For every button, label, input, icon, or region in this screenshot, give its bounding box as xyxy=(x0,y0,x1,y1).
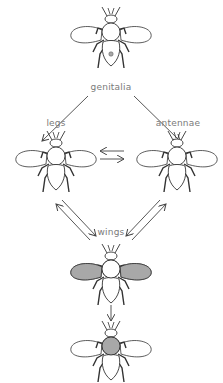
arrow-antennae-to-wings xyxy=(126,200,160,236)
label-antennae: antennae xyxy=(156,118,200,128)
label-legs: legs xyxy=(46,118,65,128)
fly-thorax xyxy=(71,321,151,382)
arrow-wings-to-antennae xyxy=(132,204,166,240)
arrow-wings-to-legs xyxy=(56,204,90,240)
wing-right-highlight xyxy=(120,264,151,280)
fly-development-diagram xyxy=(0,0,223,383)
arrow-legs-to-wings xyxy=(62,200,96,236)
label-wings: wings xyxy=(98,227,125,237)
fly-legs xyxy=(16,131,96,192)
fly-genitalia xyxy=(71,7,151,68)
fly-wings xyxy=(71,244,151,305)
label-genitalia: genitalia xyxy=(91,82,132,92)
thorax-highlight xyxy=(102,337,120,355)
genitalia-highlight xyxy=(109,52,113,56)
wing-left-highlight xyxy=(71,264,102,280)
fly-antennae xyxy=(137,131,217,192)
